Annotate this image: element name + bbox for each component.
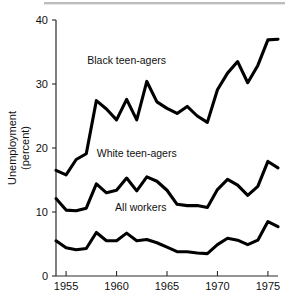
y-tick-label: 10 xyxy=(36,206,48,218)
series-line xyxy=(56,161,278,210)
page-top-rule xyxy=(44,2,285,4)
x-tick-label: 1955 xyxy=(54,280,78,292)
series-label: All workers xyxy=(115,201,166,213)
y-axis-title: Unemployment (percent) xyxy=(6,111,31,185)
x-tick-label: 1965 xyxy=(155,280,179,292)
y-tick-label: 20 xyxy=(36,142,48,154)
y-tick-label: 0 xyxy=(42,270,48,282)
y-axis-title-line1: Unemployment xyxy=(6,111,18,185)
x-axis-ticks: 19551960196519701975 xyxy=(54,271,280,292)
unemployment-chart-figure: 010203040 19551960196519701975 Black tee… xyxy=(0,0,285,302)
x-tick-label: 1975 xyxy=(256,280,280,292)
y-tick-label: 40 xyxy=(36,14,48,26)
series-label: White teen-agers xyxy=(97,147,177,159)
x-tick-label: 1960 xyxy=(104,280,128,292)
series-line xyxy=(56,222,278,254)
x-tick-label: 1970 xyxy=(205,280,229,292)
series-label: Black teen-agers xyxy=(87,54,166,66)
y-axis-title-line2: (percent) xyxy=(19,126,31,170)
y-tick-label: 30 xyxy=(36,78,48,90)
chart-canvas: 010203040 19551960196519701975 Black tee… xyxy=(0,0,285,302)
y-axis-ticks: 010203040 xyxy=(36,14,56,282)
